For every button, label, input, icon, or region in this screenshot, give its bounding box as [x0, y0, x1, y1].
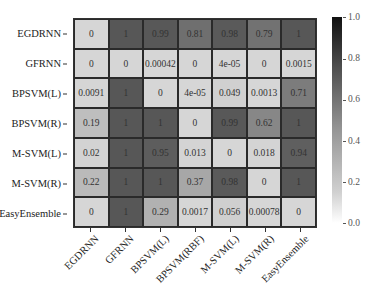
heatmap-cell: 0.81: [178, 19, 213, 49]
heatmap-cell: 0: [178, 108, 213, 138]
x-tick-label: GFRNN: [103, 233, 136, 266]
heatmap-cell: 0.0017: [178, 197, 213, 227]
heatmap-cell: 0.99: [143, 19, 178, 49]
colorbar: [332, 17, 342, 223]
heatmap-cell: 0.19: [74, 108, 109, 138]
heatmap-cell: 0.013: [178, 138, 213, 168]
heatmap-cell: 0.02: [74, 138, 109, 168]
heatmap-cell: 0.00078: [247, 197, 282, 227]
heatmap-cell: 0: [212, 138, 247, 168]
heatmap-cell: 1: [143, 108, 178, 138]
heatmap-cell: 0.98: [212, 19, 247, 49]
heatmap-cell: 1: [109, 168, 144, 198]
x-tick-mark: [230, 228, 231, 232]
heatmap-cell: 0.29: [143, 197, 178, 227]
heatmap-cell: 0.0015: [281, 49, 316, 79]
heatmap-cell: 0: [109, 49, 144, 79]
heatmap-cell: 0.00042: [143, 49, 178, 79]
heatmap-cell: 0: [74, 49, 109, 79]
heatmap-cell: 1: [109, 19, 144, 49]
heatmap-cell: 0.95: [143, 138, 178, 168]
y-tick-label: BPSVM(R): [11, 118, 67, 129]
heatmap-cell: 1: [109, 197, 144, 227]
heatmap-cell: 1: [109, 78, 144, 108]
colorbar-tick-label: 1.0: [343, 12, 360, 22]
y-tick-label: GFRNN: [25, 58, 67, 69]
y-tick-label: M-SVM(L): [12, 148, 67, 159]
heatmap-cell: 0.99: [212, 108, 247, 138]
heatmap-cell: 0: [74, 19, 109, 49]
colorbar-tick-label: 0.0: [343, 218, 360, 228]
heatmap-cell: 0.018: [247, 138, 282, 168]
y-tick-label: EGDRNN: [17, 28, 67, 39]
heatmap-cell: 0: [247, 168, 282, 198]
heatmap-cell: 0.71: [281, 78, 316, 108]
colorbar-tick-label: 0.2: [343, 177, 360, 187]
heatmap-cell: 1: [281, 108, 316, 138]
heatmap-cell: 0.62: [247, 108, 282, 138]
heatmap-cell: 0.94: [281, 138, 316, 168]
y-tick-label: BPSVM(L): [12, 88, 67, 99]
heatmap-cell: 4e-05: [212, 49, 247, 79]
heatmap-cell: 0.049: [212, 78, 247, 108]
heatmap-cell: 0: [74, 197, 109, 227]
x-tick-mark: [125, 228, 126, 232]
x-tick-label: EGDRNN: [62, 233, 101, 272]
x-tick-mark: [195, 228, 196, 232]
heatmap-cell: 1: [281, 19, 316, 49]
heatmap-cell: 1: [109, 108, 144, 138]
heatmap-cell: 0.0091: [74, 78, 109, 108]
x-tick-mark: [300, 228, 301, 232]
x-tick-mark: [160, 228, 161, 232]
heatmap-cell: 0.37: [178, 168, 213, 198]
x-tick-mark: [90, 228, 91, 232]
y-tick-label: EasyEnsemble: [0, 208, 67, 219]
colorbar-tick-label: 0.4: [343, 136, 360, 146]
heatmap-cell: 4e-05: [178, 78, 213, 108]
heatmap-cell: 1: [281, 168, 316, 198]
heatmap-cell: 0.22: [74, 168, 109, 198]
colorbar-tick-label: 0.8: [343, 53, 360, 63]
heatmap-cell: 1: [143, 168, 178, 198]
y-tick-label: M-SVM(R): [11, 178, 67, 189]
colorbar-tick-label: 0.6: [343, 94, 360, 104]
heatmap-cell: 0: [178, 49, 213, 79]
heatmap-cell: 0: [143, 78, 178, 108]
heatmap-grid: 010.990.810.980.791000.0004204e-0500.001…: [73, 18, 317, 228]
heatmap-cell: 0: [281, 197, 316, 227]
heatmap-cell: 1: [109, 138, 144, 168]
heatmap-cell: 0.79: [247, 19, 282, 49]
heatmap-cell: 0.0013: [247, 78, 282, 108]
heatmap-cell: 0: [247, 49, 282, 79]
heatmap-cell: 0.056: [212, 197, 247, 227]
heatmap-cell: 0.98: [212, 168, 247, 198]
x-tick-mark: [265, 228, 266, 232]
